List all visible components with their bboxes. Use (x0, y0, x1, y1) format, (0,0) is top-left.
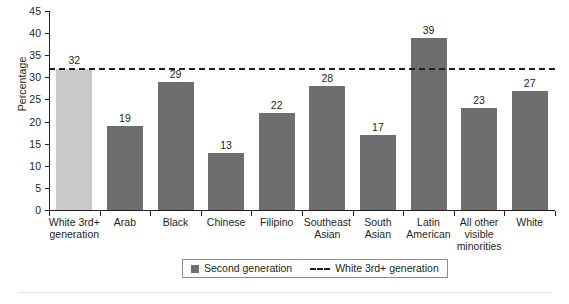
y-axis-tick-mark (45, 188, 49, 189)
square-swatch-icon (191, 265, 199, 273)
y-axis-tick-label: 15 (9, 139, 41, 150)
bar-value-label: 19 (95, 113, 155, 124)
bar-value-label: 29 (146, 69, 206, 80)
y-axis-tick-label: 45 (9, 6, 41, 17)
y-axis-tick-label: 25 (9, 94, 41, 105)
y-axis-tick-mark (45, 11, 49, 12)
reference-line (49, 68, 555, 70)
x-axis-category-label: White (498, 216, 562, 228)
y-axis-tick-mark (45, 77, 49, 78)
y-axis-tick-label: 5 (9, 183, 41, 194)
bar-value-label: 32 (44, 55, 104, 66)
y-axis-tick-mark (45, 166, 49, 167)
bar-value-label: 22 (247, 100, 307, 111)
y-axis-tick-label: 10 (9, 161, 41, 172)
legend-label-white-3rd-generation: White 3rd+ generation (335, 263, 439, 274)
y-axis-tick-label: 0 (9, 205, 41, 216)
y-axis-tick-mark (45, 33, 49, 34)
legend-item-white-3rd-generation: White 3rd+ generation (310, 263, 439, 274)
bar[interactable] (461, 108, 497, 210)
chart-legend: Second generation White 3rd+ generation (182, 259, 448, 278)
bar[interactable] (56, 69, 92, 211)
bar[interactable] (309, 86, 345, 210)
bar-value-label: 39 (399, 25, 459, 36)
y-axis-tick-mark (45, 122, 49, 123)
dashed-line-icon (310, 268, 330, 270)
y-axis-tick-mark (45, 99, 49, 100)
bar[interactable] (208, 153, 244, 210)
y-axis-tick-mark (45, 144, 49, 145)
bottom-divider (18, 292, 551, 293)
y-axis-tick-label: 40 (9, 28, 41, 39)
legend-item-second-generation: Second generation (191, 263, 292, 274)
bar[interactable] (411, 38, 447, 210)
bar[interactable] (158, 82, 194, 210)
bar-value-label: 27 (500, 78, 560, 89)
bar-value-label: 28 (297, 73, 357, 84)
bar-value-label: 13 (196, 140, 256, 151)
y-axis-tick-label: 30 (9, 72, 41, 83)
chart-figure: Percentage 051015202530354045 3219291322… (0, 0, 569, 304)
bar[interactable] (107, 126, 143, 210)
bar-value-label: 23 (449, 95, 509, 106)
bar[interactable] (512, 91, 548, 210)
y-axis-tick-label: 20 (9, 117, 41, 128)
plot-area: 051015202530354045 32192913222817392327 (49, 11, 555, 210)
legend-label-second-generation: Second generation (204, 263, 292, 274)
y-axis-line (49, 11, 50, 210)
y-axis-tick-label: 35 (9, 50, 41, 61)
bar[interactable] (360, 135, 396, 210)
bar[interactable] (259, 113, 295, 210)
bar-value-label: 17 (348, 122, 408, 133)
